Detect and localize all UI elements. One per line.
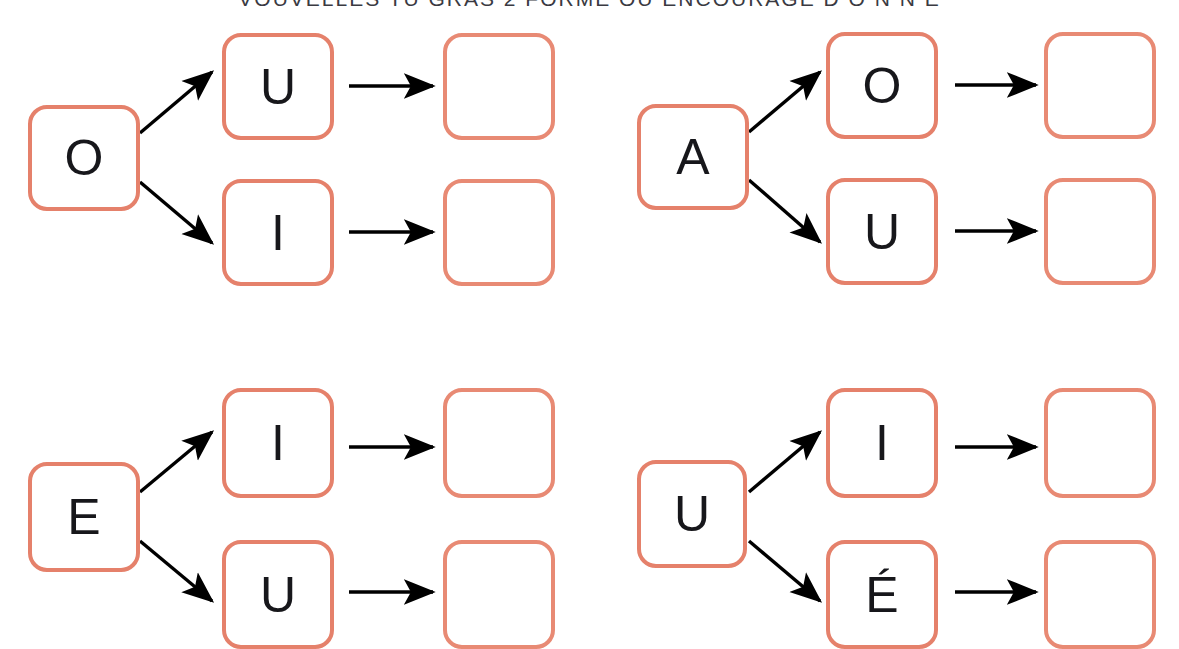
exercise-2-branch-1-answer-box[interactable] bbox=[1044, 32, 1156, 139]
exercise-3-source-box[interactable]: E bbox=[28, 462, 140, 572]
result-arrow-group-3 bbox=[349, 447, 433, 592]
exercise-3-branch-2-box[interactable]: U bbox=[222, 540, 334, 649]
result-arrow-group-2 bbox=[955, 85, 1036, 231]
arrow-layer bbox=[0, 0, 1179, 649]
branch-arrow-group-3 bbox=[140, 432, 212, 601]
exercise-4-branch-1-answer-box[interactable] bbox=[1044, 388, 1156, 498]
branch-arrow-group-2 bbox=[749, 72, 820, 242]
exercise-4-branch-2-answer-box[interactable] bbox=[1044, 540, 1156, 649]
exercise-4-branch-2-box[interactable]: É bbox=[826, 540, 938, 649]
exercise-1-branch-2-answer-box[interactable] bbox=[443, 179, 555, 286]
exercise-3-branch-1-box[interactable]: I bbox=[222, 388, 334, 498]
exercise-4-branch-1-box[interactable]: I bbox=[826, 388, 938, 498]
result-arrow-group-1 bbox=[349, 86, 433, 232]
exercise-2-branch-2-answer-box[interactable] bbox=[1044, 178, 1156, 285]
branch-arrow-group-4 bbox=[749, 432, 820, 601]
exercise-2-branch-2-box[interactable]: U bbox=[826, 178, 938, 285]
exercise-3-branch-1-answer-box[interactable] bbox=[443, 388, 555, 498]
exercise-1-branch-1-box[interactable]: U bbox=[222, 33, 334, 140]
exercise-4-source-box[interactable]: U bbox=[637, 460, 747, 568]
exercise-1-branch-2-box[interactable]: I bbox=[222, 179, 334, 286]
worksheet-page: VOUVELLES TU GRAS 2 FORME OU ENCOURAGE D… bbox=[0, 0, 1179, 649]
exercise-1-branch-1-answer-box[interactable] bbox=[443, 33, 555, 140]
exercise-1-source-box[interactable]: O bbox=[28, 105, 140, 211]
exercise-2-branch-1-box[interactable]: O bbox=[826, 32, 938, 139]
exercise-3-branch-2-answer-box[interactable] bbox=[443, 540, 555, 649]
page-title: VOUVELLES TU GRAS 2 FORME OU ENCOURAGE D… bbox=[0, 0, 1179, 9]
exercise-2-source-box[interactable]: A bbox=[637, 104, 749, 210]
branch-arrow-group-1 bbox=[140, 72, 212, 243]
result-arrow-group-4 bbox=[955, 447, 1036, 592]
